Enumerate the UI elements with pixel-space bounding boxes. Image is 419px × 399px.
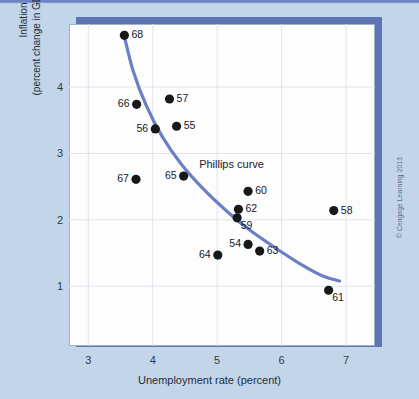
data-point-marker: [120, 31, 129, 40]
data-point-marker: [213, 250, 222, 259]
data-point-marker: [172, 122, 181, 131]
data-point-label: 61: [332, 291, 344, 303]
data-point-marker: [243, 187, 252, 196]
data-point-label: 60: [255, 184, 267, 196]
phillips-curve-figure: 1234 34567 68665756556765606259585463646…: [0, 0, 419, 399]
y-axis-tick-label: 4: [47, 81, 63, 93]
copyright-credit: © Cengage Learning 2013: [396, 157, 403, 238]
data-point-label: 65: [165, 169, 177, 181]
data-point-label: 68: [132, 28, 144, 40]
data-point-label: 64: [199, 248, 211, 260]
gridlines: [69, 24, 375, 346]
data-point-label: 57: [177, 92, 189, 104]
phillips-curve-annotation: Phillips curve: [199, 158, 264, 170]
data-point-marker: [234, 205, 243, 214]
data-point-label: 59: [241, 219, 253, 231]
x-axis-title: Unemployment rate (percent): [0, 374, 419, 386]
data-point-label: 63: [267, 244, 279, 256]
data-point-marker: [132, 100, 141, 109]
data-point-marker: [165, 94, 174, 103]
y-axis-title-line-2: (percent change in GDP price deflator): [30, 0, 43, 100]
data-point-marker: [329, 206, 338, 215]
x-axis-tick-label: 6: [272, 354, 292, 366]
x-axis-tick-label: 7: [336, 354, 356, 366]
y-axis-tick-label: 1: [47, 280, 63, 292]
data-point-label: 54: [229, 237, 241, 249]
y-axis-tick-label: 2: [47, 214, 63, 226]
data-point-label: 55: [184, 119, 196, 131]
data-point-marker: [255, 246, 264, 255]
x-axis-tick-label: 3: [78, 354, 98, 366]
y-axis-title: Inflation rate (percent change in GDP pr…: [17, 0, 43, 100]
scatter-plot: [69, 24, 375, 346]
y-axis-tick-label: 3: [47, 147, 63, 159]
data-point-marker: [131, 175, 140, 184]
data-point-label: 58: [341, 204, 353, 216]
data-point-label: 62: [246, 202, 258, 214]
data-point-label: 66: [118, 97, 130, 109]
data-point-label: 67: [117, 172, 129, 184]
x-axis-tick-label: 4: [143, 354, 163, 366]
data-point-marker: [151, 124, 160, 133]
data-point-marker: [179, 171, 188, 180]
top-rule-divider: [0, 0, 419, 4]
x-axis-tick-label: 5: [207, 354, 227, 366]
data-point-marker: [243, 240, 252, 249]
y-axis-title-line-1: Inflation rate: [17, 0, 30, 100]
data-point-label: 56: [137, 122, 149, 134]
